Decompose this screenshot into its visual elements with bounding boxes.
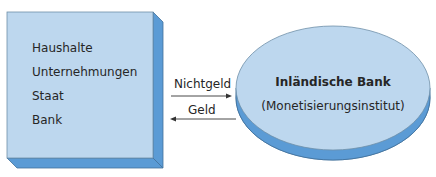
arrow-geld xyxy=(170,117,236,122)
box-item-staat: Staat xyxy=(32,89,64,103)
box-item-bank: Bank xyxy=(32,113,62,127)
arrow-label-nichtgeld: Nichtgeld xyxy=(174,77,231,91)
bank-subtitle: (Monetisierungsinstitut) xyxy=(236,99,430,113)
arrow-nichtgeld xyxy=(171,94,232,99)
box-item-haushalte: Haushalte xyxy=(32,41,93,55)
arrow-label-geld: Geld xyxy=(188,103,216,117)
bank-title: Inländische Bank xyxy=(236,75,430,89)
box-item-unternehmungen: Unternehmungen xyxy=(32,65,137,79)
right-ellipse-shape xyxy=(236,26,430,160)
left-box-shape xyxy=(7,12,163,168)
